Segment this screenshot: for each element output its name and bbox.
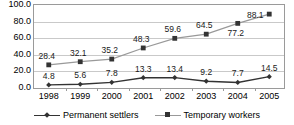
y-tick-label: 0.0	[0, 83, 31, 92]
y-tick-label: 60.0	[0, 33, 31, 42]
diamond-marker-icon	[44, 112, 50, 118]
x-tick-label: 1998	[39, 91, 59, 101]
data-point-label: 4.8	[43, 71, 55, 80]
data-point-label: 13.4	[166, 64, 183, 73]
legend-key-square	[155, 111, 181, 120]
data-point-label: 64.5	[196, 21, 213, 30]
data-point-label: 48.3	[133, 34, 150, 43]
x-tick-label: 2000	[102, 91, 122, 101]
y-axis: 100.0 80.0 60.0 40.0 20.0 0.0	[0, 0, 31, 93]
x-tick-label: 1999	[70, 91, 90, 101]
data-point-label: 14.5	[261, 63, 278, 72]
data-point-label: 7.8	[106, 69, 118, 78]
data-point-label: 13.3	[135, 64, 152, 73]
gridline	[34, 38, 284, 39]
legend-label: Permanent settlers	[63, 110, 139, 120]
x-tick-label: 2002	[165, 91, 185, 101]
x-axis: 19981999200020012002200320042005	[33, 91, 285, 105]
x-tick-label: 2004	[228, 91, 248, 101]
legend-item-permanent-settlers[interactable]: Permanent settlers	[34, 110, 139, 120]
data-point-label: 59.6	[164, 25, 181, 34]
x-tick-label: 2005	[259, 91, 279, 101]
data-point-label: 9.2	[200, 68, 212, 77]
data-point-label: 7.7	[232, 69, 244, 78]
y-tick-label: 40.0	[0, 50, 31, 59]
x-tick-label: 2003	[196, 91, 216, 101]
data-point-label: 5.6	[74, 71, 86, 80]
legend-key-diamond	[34, 111, 60, 120]
y-tick-label: 20.0	[0, 66, 31, 75]
data-point-label: 35.2	[101, 46, 118, 55]
gridline	[34, 71, 284, 72]
line-chart: 100.0 80.0 60.0 40.0 20.0 0.0 28.432.135…	[0, 0, 294, 125]
gridline	[34, 22, 284, 23]
legend-item-temporary-workers[interactable]: Temporary workers	[155, 110, 261, 120]
data-point-label: 88.1	[247, 11, 264, 20]
data-point-label: 28.4	[38, 51, 55, 60]
data-point-label: 77.2	[227, 29, 244, 38]
y-tick-label: 100.0	[0, 0, 31, 9]
data-point-label: 32.1	[70, 48, 87, 57]
legend-label: Temporary workers	[184, 110, 261, 120]
chart-legend: Permanent settlers Temporary workers	[0, 107, 294, 123]
square-marker-icon	[165, 112, 170, 117]
y-tick-label: 80.0	[0, 17, 31, 26]
x-tick-label: 2001	[133, 91, 153, 101]
